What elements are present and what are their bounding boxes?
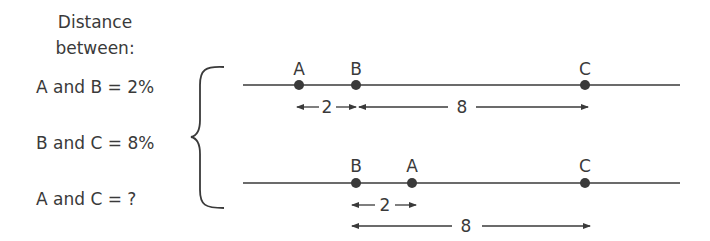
point-b-top	[351, 80, 361, 90]
label-c-bottom: C	[579, 156, 591, 176]
curly-brace	[191, 67, 224, 208]
label-c-top: C	[579, 59, 591, 79]
distance-8-bottom: 8	[461, 216, 472, 236]
distance-2-bottom: 2	[380, 195, 391, 215]
point-a-top	[294, 80, 304, 90]
point-c-top	[580, 80, 590, 90]
label-a-bottom: A	[406, 156, 418, 176]
label-a-top: A	[293, 59, 305, 79]
point-c-bottom	[580, 178, 590, 188]
distance-2-top: 2	[322, 97, 333, 117]
point-b-bottom	[351, 178, 361, 188]
label-b-top: B	[350, 59, 362, 79]
distance-8-top: 8	[457, 97, 468, 117]
label-b-bottom: B	[350, 156, 362, 176]
linkage-diagram: A B C 2 8 B A C 2 8	[0, 0, 710, 241]
point-a-bottom	[407, 178, 417, 188]
